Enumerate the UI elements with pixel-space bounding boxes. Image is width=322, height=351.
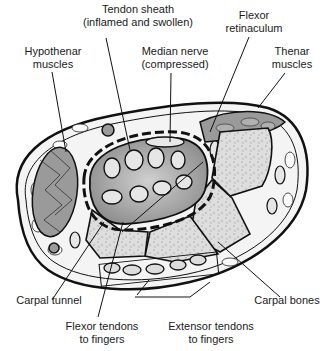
label-flexor-retinaculum: Flexor retinaculum [224,9,284,35]
label-median-nerve: Median nerve (compressed) [135,45,215,71]
label-extensor-tendons: Extensor tendons to fingers [166,320,256,346]
label-thenar: Thenar muscles [267,45,317,71]
label-line: Hypothenar [18,45,88,58]
label-carpal-bones: Carpal bones [252,294,322,307]
label-line: Carpal bones [252,294,322,307]
label-line: muscles [18,58,88,71]
label-line: Carpal tunnel [14,294,84,307]
label-line: (inflamed and swollen) [68,16,208,29]
label-line: retinaculum [224,22,284,35]
label-tendon-sheath: Tendon sheath (inflamed and swollen) [68,3,208,29]
label-carpal-tunnel: Carpal tunnel [14,294,84,307]
label-line: muscles [267,58,317,71]
median-nerve [146,137,184,147]
label-line: to fingers [166,333,256,346]
label-line: Extensor tendons [166,320,256,333]
label-line: to fingers [62,333,142,346]
label-hypothenar: Hypothenar muscles [18,45,88,71]
label-line: Flexor tendons [62,320,142,333]
label-line: Tendon sheath [68,3,208,16]
label-flexor-tendons: Flexor tendons to fingers [62,320,142,346]
label-line: Flexor [224,9,284,22]
label-line: Thenar [267,45,317,58]
label-line: Median nerve [135,45,215,58]
label-line: (compressed) [135,58,215,71]
